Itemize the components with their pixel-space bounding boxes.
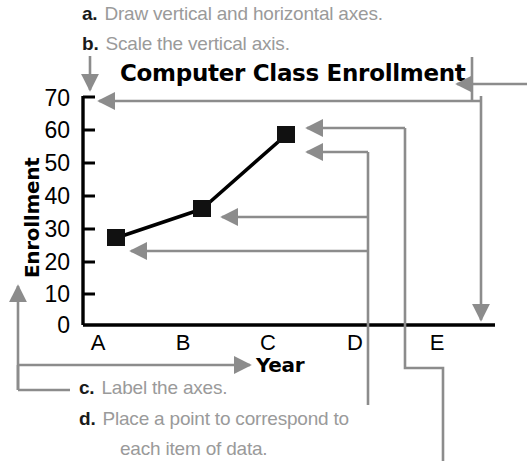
data-point-b [193, 200, 211, 217]
worksheet-figure: a.Draw vertical and horizontal axes. b.S… [0, 0, 527, 461]
data-series-enrollment [107, 126, 295, 246]
callout-point-c-stem [405, 128, 443, 461]
callout-lines [18, 56, 527, 461]
series-line [116, 135, 286, 238]
data-point-c [277, 126, 295, 143]
data-point-a [107, 229, 125, 246]
y-axis-ticks [83, 97, 95, 294]
figure-graphics [0, 0, 527, 461]
